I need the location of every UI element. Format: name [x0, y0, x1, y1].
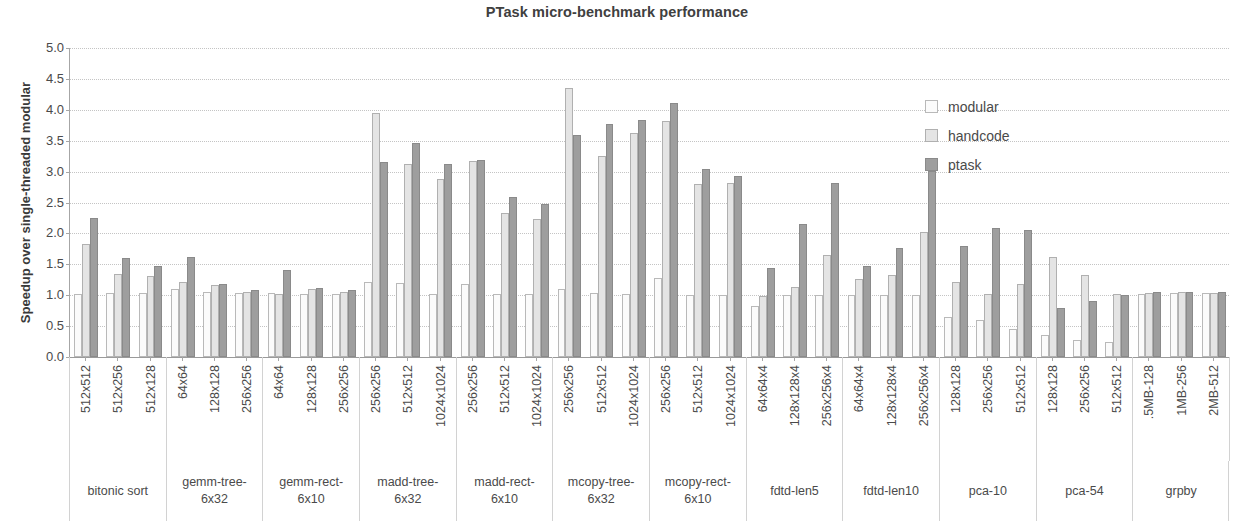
bar-ptask	[316, 288, 324, 357]
group-separator	[649, 357, 650, 461]
bar-modular	[300, 294, 308, 357]
bar-handcode	[308, 289, 316, 357]
bar-modular	[976, 320, 984, 357]
bar-ptask	[187, 257, 195, 357]
bar-ptask	[1153, 292, 1161, 357]
x-axis-tick-label: 512x512	[498, 365, 512, 413]
group-separator	[1132, 357, 1133, 461]
x-axis-tick: 1024x1024	[520, 357, 552, 461]
y-axis-tick-label: 3.5	[20, 133, 64, 148]
x-axis-tick: 256x256	[230, 357, 262, 461]
x-axis-tick: 512x512	[681, 357, 713, 461]
group-separator	[359, 357, 360, 461]
bar-handcode	[1081, 275, 1089, 357]
x-axis-tick-label: 128x128	[949, 365, 963, 413]
legend-item-ptask[interactable]: ptask	[925, 150, 1105, 179]
group-separator	[746, 357, 747, 461]
bar-handcode	[855, 279, 863, 357]
x-axis-tick: 64x64	[262, 357, 294, 461]
bar-ptask	[1186, 292, 1194, 357]
bar-modular	[751, 306, 759, 357]
x-axis-tick-mark	[440, 357, 441, 361]
bar-handcode	[1113, 294, 1121, 357]
bar-handcode	[1178, 292, 1186, 357]
bar-ptask	[573, 135, 581, 357]
bar-ptask	[1089, 301, 1097, 357]
bar-ptask	[283, 270, 291, 357]
x-axis-tick: 512x128	[133, 357, 165, 461]
x-axis-tick-mark	[923, 357, 924, 361]
bar-handcode	[340, 292, 348, 357]
bar-handcode	[1210, 293, 1218, 357]
x-axis-tick-label: 128x128	[208, 365, 222, 413]
group-label-text: mcopy-tree-6x32	[568, 474, 635, 508]
x-axis-tick-mark	[1052, 357, 1053, 361]
bar-modular	[1073, 340, 1081, 357]
x-axis-tick-mark	[1084, 357, 1085, 361]
legend-swatch-ptask	[925, 158, 938, 171]
y-axis-tick-label: 4.5	[20, 71, 64, 86]
bar-modular	[912, 295, 920, 357]
y-axis-tick-label: 3.0	[20, 164, 64, 179]
x-axis-tick: 1024x1024	[617, 357, 649, 461]
x-axis-tick: 256x256	[456, 357, 488, 461]
x-axis-group-labels: bitonic sortgemm-tree-6x32gemm-rect-6x10…	[69, 461, 1229, 521]
x-axis-tick: 256x256x4	[810, 357, 842, 461]
x-axis-tick-mark	[536, 357, 537, 361]
x-axis-tick-label: 512x256	[111, 365, 125, 413]
group-label: gemm-tree-6x32	[166, 461, 263, 521]
bar-ptask	[219, 284, 227, 357]
bar-ptask	[606, 124, 614, 357]
bar-modular	[203, 292, 211, 357]
bar-modular	[1138, 294, 1146, 357]
x-axis-tick-mark	[182, 357, 183, 361]
x-axis-tick: 1024x1024	[423, 357, 455, 461]
group-separator	[1036, 357, 1037, 461]
bar-handcode	[114, 274, 122, 357]
x-axis-tick: 128x128x4	[875, 357, 907, 461]
legend-item-handcode[interactable]: handcode	[925, 121, 1105, 150]
x-axis-tick-label: 256x256x4	[820, 365, 834, 426]
x-axis-tick-mark	[665, 357, 666, 361]
x-axis-tick-mark	[1181, 357, 1182, 361]
group-label: mcopy-tree-6x32	[552, 461, 649, 521]
x-axis-tick: 2MB-512	[1197, 357, 1229, 461]
bar-modular	[1009, 329, 1017, 357]
bar-ptask	[122, 258, 130, 357]
x-axis-tick: 256x256	[359, 357, 391, 461]
x-axis-tick-label: 256x256	[981, 365, 995, 413]
x-axis-tick: 128x128	[939, 357, 971, 461]
x-axis-tick-label: 2MB-512	[1207, 365, 1221, 416]
bar-handcode	[759, 296, 767, 357]
bar-handcode	[179, 282, 187, 357]
x-axis-tick-label: 256x256	[659, 365, 673, 413]
legend-swatch-handcode	[925, 129, 938, 142]
x-axis-tick: 1024x1024	[713, 357, 745, 461]
group-label-text: pca-54	[1065, 483, 1103, 500]
bar-handcode	[984, 294, 992, 357]
bar-handcode	[565, 88, 573, 357]
bar-handcode	[437, 179, 445, 357]
bar-ptask	[509, 197, 517, 357]
group-separator	[456, 357, 457, 461]
bar-modular	[1202, 293, 1210, 357]
y-axis-tick-label: 2.0	[20, 225, 64, 240]
chart-title: PTask micro-benchmark performance	[0, 4, 1234, 20]
bar-modular	[719, 295, 727, 357]
bar-modular	[686, 295, 694, 357]
x-axis-tick: 512x512	[488, 357, 520, 461]
group-separator	[166, 357, 167, 461]
bar-ptask	[1057, 308, 1065, 357]
legend-item-modular[interactable]: modular	[925, 92, 1105, 121]
x-axis-tick: 1MB-256	[1165, 357, 1197, 461]
x-axis-tick-label: 256x256	[1078, 365, 1092, 413]
x-axis-tick-mark	[955, 357, 956, 361]
bar-modular	[1105, 342, 1113, 357]
group-label: fdtd-len10	[842, 461, 939, 521]
x-axis-tick: 512x512	[391, 357, 423, 461]
group-label-text: gemm-tree-6x32	[182, 474, 247, 508]
group-label: pca-10	[939, 461, 1036, 521]
x-axis-tick-label: 256x256	[240, 365, 254, 413]
bar-ptask	[767, 268, 775, 357]
x-axis-tick-label: 1024x1024	[627, 365, 641, 427]
